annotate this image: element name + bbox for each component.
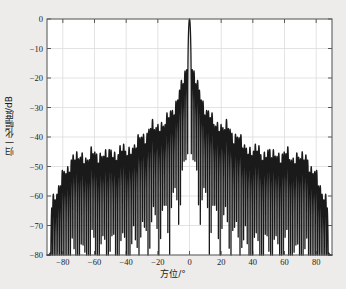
x-axis-label: 方位/° <box>0 267 346 280</box>
beampattern-figure <box>0 0 346 289</box>
y-tick-label: −70 <box>18 221 43 231</box>
x-tick-label: −60 <box>81 257 109 267</box>
y-tick-label: −40 <box>18 132 43 142</box>
y-tick-label: −80 <box>18 250 43 260</box>
x-tick-label: 20 <box>207 257 235 267</box>
x-tick-label: 80 <box>302 257 330 267</box>
y-tick-label: 0 <box>18 14 43 24</box>
x-tick-label: −80 <box>49 257 77 267</box>
y-tick-label: −20 <box>18 73 43 83</box>
x-tick-label: −40 <box>112 257 140 267</box>
y-tick-label: −50 <box>18 162 43 172</box>
y-tick-label: −10 <box>18 44 43 54</box>
y-tick-label: −30 <box>18 103 43 113</box>
y-tick-label: −60 <box>18 191 43 201</box>
x-tick-label: 0 <box>176 257 204 267</box>
x-tick-label: 40 <box>239 257 267 267</box>
x-tick-label: −20 <box>144 257 172 267</box>
x-tick-label: 60 <box>271 257 299 267</box>
